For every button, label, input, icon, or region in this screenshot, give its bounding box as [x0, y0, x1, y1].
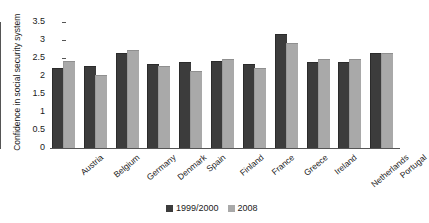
x-tick-label: Belgium	[112, 153, 141, 179]
bar	[381, 53, 393, 148]
bar-group	[273, 22, 305, 148]
y-tick-label: 0	[16, 143, 45, 152]
bar	[95, 75, 107, 148]
bar	[254, 68, 266, 148]
bar-group	[336, 22, 368, 148]
legend-item: 1999/2000	[166, 204, 219, 213]
legend-item: 2008	[228, 204, 258, 213]
bar	[318, 59, 330, 148]
x-tick-label: Denmark	[176, 153, 208, 182]
x-axis-line	[50, 148, 400, 149]
bar	[158, 66, 170, 148]
y-axis-line	[0, 22, 1, 149]
bar	[349, 59, 361, 148]
legend-label: 2008	[238, 204, 258, 213]
legend-swatch-icon	[166, 205, 173, 212]
y-tick-label: 1	[16, 107, 45, 116]
bar	[286, 43, 298, 148]
bar	[127, 50, 139, 148]
x-tick-label: Finland	[239, 153, 266, 177]
y-tick-label: 2.5	[16, 53, 45, 62]
bar	[63, 61, 75, 148]
x-tick-label: Ireland	[334, 153, 359, 176]
x-tick-label: Spain	[205, 153, 227, 173]
bar-group	[305, 22, 337, 148]
plot-area	[50, 22, 400, 148]
bar-group	[82, 22, 114, 148]
y-axis-tick-labels: 00.511.522.533.5	[16, 0, 45, 223]
bar-group	[209, 22, 241, 148]
x-axis-category-labels: AustriaBelgiumGermanyDenmarkSpainFinland…	[50, 150, 400, 200]
x-tick-label: Austria	[79, 153, 105, 177]
bar-group	[177, 22, 209, 148]
bar-group	[50, 22, 82, 148]
legend-swatch-icon	[228, 205, 235, 212]
chart-legend: 1999/20002008	[166, 204, 258, 213]
bar	[190, 71, 202, 148]
y-tick-label: 3	[16, 35, 45, 44]
bar	[222, 59, 234, 148]
x-tick-label: Germany	[145, 153, 177, 182]
bar-group	[368, 22, 400, 148]
bar-group	[241, 22, 273, 148]
y-tick-label: 3.5	[16, 17, 45, 26]
bar-group	[114, 22, 146, 148]
x-tick-label: Greece	[302, 153, 329, 177]
bar-group	[145, 22, 177, 148]
y-tick-label: 1.5	[16, 89, 45, 98]
x-tick-label: France	[270, 153, 296, 177]
y-tick-label: 2	[16, 71, 45, 80]
y-tick-label: 0.5	[16, 125, 45, 134]
legend-label: 1999/2000	[176, 204, 219, 213]
